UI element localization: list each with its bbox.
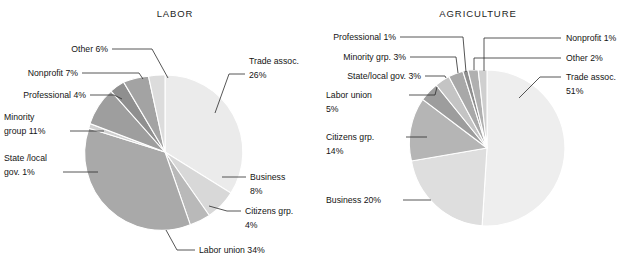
label-labor-union: Labor union 34% <box>199 245 265 255</box>
label-business: Business 20% <box>326 195 381 205</box>
charts-container: LABOR Other 6% Nonprofit <box>0 0 636 264</box>
slice-business[interactable] <box>411 148 487 226</box>
label-labor-union-line2: 5% <box>326 104 339 114</box>
label-citizens-grp-line1: Citizens grp. <box>326 132 374 142</box>
chart-agriculture-pie <box>409 70 565 226</box>
label-minority-grp: Minority grp. 3% <box>343 52 406 62</box>
label-business-line1: Business <box>250 172 286 182</box>
chart-labor-pie <box>85 75 243 230</box>
label-citizens-grp-line2: 14% <box>326 146 344 156</box>
label-professional: Professional 1% <box>333 32 396 42</box>
leader-other <box>112 49 168 78</box>
label-minority-group-line2: group 11% <box>4 126 46 136</box>
chart-agriculture-title: AGRICULTURE <box>439 8 516 19</box>
label-citizens-grp-line2: 4% <box>245 220 258 230</box>
leader-labor-union <box>166 230 195 250</box>
chart-labor: LABOR Other 6% Nonprofit <box>4 8 299 255</box>
leader-other <box>474 58 561 70</box>
label-business-line2: 8% <box>250 186 263 196</box>
chart-labor-title: LABOR <box>157 8 194 19</box>
label-professional: Professional 4% <box>23 90 86 100</box>
label-state-local-gov-line1: State /local <box>4 153 47 163</box>
leader-state-local-gov <box>425 76 446 78</box>
label-trade-assoc-line2: 51% <box>566 86 584 96</box>
chart-agriculture: AGRICULTURE Professional 1% <box>326 8 616 226</box>
label-citizens-grp-line1: Citizens grp. <box>245 206 293 216</box>
leader-nonprofit <box>484 38 561 71</box>
label-nonprofit: Nonprofit 1% <box>566 33 616 43</box>
label-other: Other 2% <box>566 53 603 63</box>
label-state-local-gov: State/local gov. 3% <box>347 71 421 81</box>
label-trade-assoc-line1: Trade assoc. <box>249 56 299 66</box>
label-trade-assoc-line1: Trade assoc. <box>566 72 616 82</box>
label-trade-assoc-line2: 26% <box>249 70 267 80</box>
label-minority-group-line1: Minority <box>4 112 35 122</box>
label-state-local-gov-line2: gov. 1% <box>4 167 35 177</box>
leader-professional <box>400 37 466 72</box>
label-other: Other 6% <box>71 44 108 54</box>
label-nonprofit: Nonprofit 7% <box>28 68 78 78</box>
label-labor-union-line1: Labor union <box>326 90 372 100</box>
